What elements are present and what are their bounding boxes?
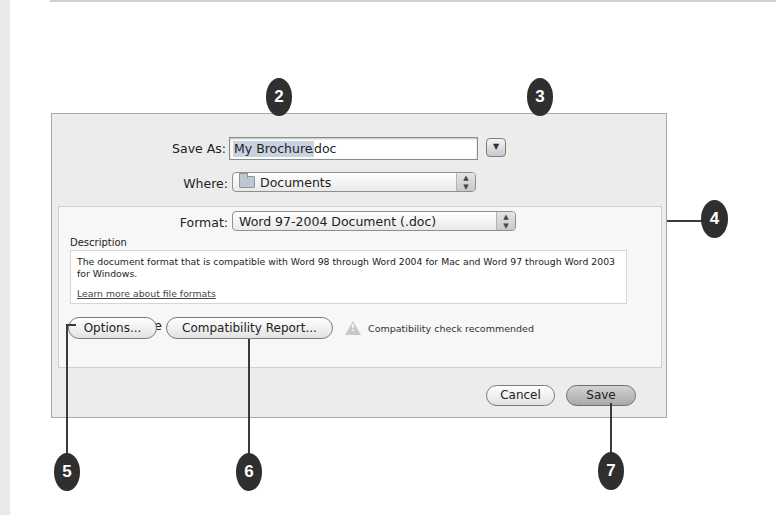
callout-7-line bbox=[610, 403, 612, 454]
callout-3: 3 bbox=[527, 78, 553, 116]
save-as-label: Save As: bbox=[150, 141, 226, 156]
save-as-input[interactable]: My Brochure .doc bbox=[229, 137, 478, 160]
description-heading: Description bbox=[70, 237, 127, 248]
format-label: Format: bbox=[150, 215, 228, 230]
save-button[interactable]: Save bbox=[566, 385, 636, 406]
learn-more-link[interactable]: Learn more about file formats bbox=[77, 288, 216, 299]
expand-dialog-button[interactable]: ▼ bbox=[486, 138, 506, 157]
disclosure-down-icon: ▼ bbox=[493, 142, 499, 151]
stepper-arrows-icon: ▲▼ bbox=[456, 173, 475, 191]
cancel-button[interactable]: Cancel bbox=[486, 385, 555, 406]
compatibility-report-button[interactable]: Compatibility Report... bbox=[166, 317, 333, 339]
callout-6-line bbox=[248, 339, 250, 454]
filename-extension: .doc bbox=[310, 141, 336, 157]
callout-5-line-v bbox=[66, 324, 68, 454]
stepper-arrows-icon: ▲▼ bbox=[496, 212, 515, 230]
callout-2: 2 bbox=[266, 78, 292, 116]
where-value: Documents bbox=[260, 175, 331, 191]
callout-4: 4 bbox=[701, 200, 728, 238]
warning-triangle-icon: ! bbox=[345, 321, 361, 335]
where-popup[interactable]: Documents ▲▼ bbox=[232, 172, 476, 192]
compatibility-warning-text: Compatibility check recommended bbox=[368, 323, 534, 334]
format-popup[interactable]: Word 97-2004 Document (.doc) ▲▼ bbox=[232, 211, 516, 231]
page-margin-strip bbox=[0, 0, 10, 515]
callout-5: 5 bbox=[54, 453, 80, 491]
callout-7: 7 bbox=[598, 452, 624, 490]
top-divider bbox=[50, 0, 776, 2]
description-box: The document format that is compatible w… bbox=[70, 250, 627, 304]
where-label: Where: bbox=[150, 176, 228, 191]
folder-icon bbox=[239, 176, 255, 188]
callout-6: 6 bbox=[236, 453, 262, 491]
options-button[interactable]: Options... bbox=[68, 317, 157, 339]
selected-filename: My Brochure bbox=[233, 141, 314, 157]
description-text: The document format that is compatible w… bbox=[77, 256, 617, 279]
format-value: Word 97-2004 Document (.doc) bbox=[239, 214, 436, 230]
